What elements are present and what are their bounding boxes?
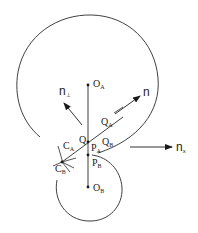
contact-diagram: OA Q QA QB PA PB OB CA CB n n⊥ nx xyxy=(0,0,198,233)
point-pb xyxy=(87,154,90,157)
label-oa: OA xyxy=(93,79,105,90)
label-pa: PA xyxy=(91,143,101,154)
label-q: Q xyxy=(79,135,86,145)
label-ca: CA xyxy=(63,141,74,152)
label-pb: PB xyxy=(92,158,102,169)
vector-n-perp-arrow xyxy=(64,103,82,125)
label-n: n xyxy=(143,86,150,98)
point-oa xyxy=(87,84,90,87)
label-ob: OB xyxy=(93,183,104,194)
vector-n-arrow xyxy=(115,96,140,114)
point-q xyxy=(87,141,90,144)
point-ob xyxy=(87,186,90,189)
label-nx: nx xyxy=(176,141,186,154)
label-qb: QB xyxy=(102,137,113,148)
body-b-outline xyxy=(56,155,122,221)
contact-parallel-stroke xyxy=(114,107,123,113)
label-cb: CB xyxy=(55,164,66,175)
label-qa: QA xyxy=(101,117,113,128)
label-n-perp: n⊥ xyxy=(59,85,71,98)
diagram-canvas xyxy=(0,0,198,233)
